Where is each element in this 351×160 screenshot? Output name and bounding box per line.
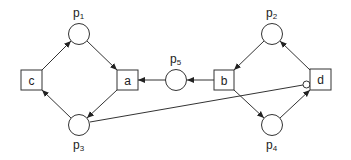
place-p1 [69,24,90,45]
arc-d-p2 [280,41,310,70]
inhibitor-circle [303,81,310,88]
arc-p3-c [42,90,71,118]
transition-label-a: a [124,74,131,88]
transition-label-c: c [29,74,35,88]
transition-label-b: b [221,74,228,88]
arc-a-p3 [87,90,117,118]
place-p3 [69,115,90,136]
arc-p2-b [234,41,264,70]
place-label-p1: p1 [73,6,85,21]
place-p2 [262,24,283,45]
place-p4 [262,115,283,136]
arc-c-p1 [42,41,71,70]
place-label-p3: p3 [73,138,85,153]
place-label-p4: p4 [266,138,278,153]
arc-p4-d [280,90,310,118]
place-label-p5: p5 [170,52,182,67]
place-label-p2: p2 [266,6,278,21]
arc-p1-a [87,41,117,70]
place-p5 [166,70,187,91]
petri-net-diagram: c a b d p1 p2 p3 p4 p5 [0,0,351,160]
transition-label-d: d [317,73,324,87]
